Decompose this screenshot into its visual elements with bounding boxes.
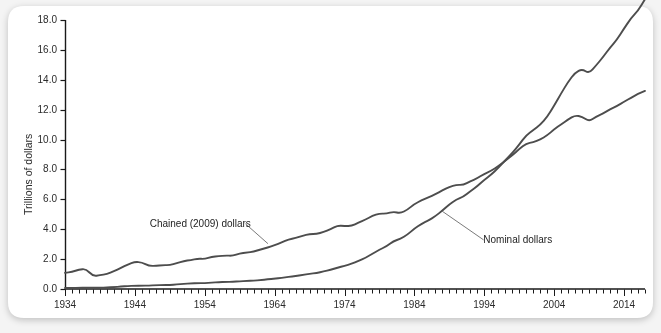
series-annotation-label: Chained (2009) dollars [150,218,251,229]
x-tick-label: 1964 [264,300,286,310]
y-tick-label: 16.0 [23,45,57,55]
x-tick-label: 1944 [124,300,146,310]
x-tick-label: 1984 [403,300,425,310]
y-tick-label: 12.0 [23,105,57,115]
gdp-line-chart [0,0,661,333]
x-tick-label: 1934 [54,300,76,310]
x-tick-label: 2004 [543,300,565,310]
x-tick-label: 2014 [613,300,635,310]
y-tick-label: 10.0 [23,135,57,145]
x-tick-label: 1994 [473,300,495,310]
series-annotation-label: Nominal dollars [483,234,552,245]
figure-card: Trillions of dollars 0.02.04.06.08.010.0… [0,0,661,333]
y-tick-label: 18.0 [23,15,57,25]
y-tick-label: 14.0 [23,75,57,85]
y-tick-label: 2.0 [23,254,57,264]
y-tick-label: 4.0 [23,224,57,234]
x-tick-label: 1954 [194,300,216,310]
y-tick-label: 6.0 [23,194,57,204]
y-tick-label: 0.0 [23,284,57,294]
y-tick-label: 8.0 [23,164,57,174]
x-tick-label: 1974 [333,300,355,310]
